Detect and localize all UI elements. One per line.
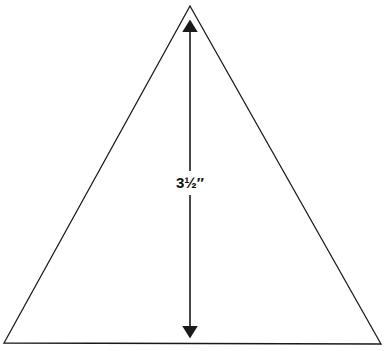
height-label: 3½″ xyxy=(168,171,212,195)
